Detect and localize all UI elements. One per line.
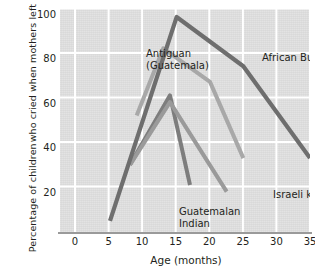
x-tick-label-10: 10 — [130, 236, 154, 247]
annotation-guatemalan-indian: Guatemalan Indian — [179, 206, 240, 230]
x-tick-label-30: 30 — [264, 236, 288, 247]
annotation-israeli-kibbutzim: Israeli kibbutzim — [273, 189, 310, 201]
x-tick-label-15: 15 — [164, 236, 188, 247]
y-tick-label-80: 80 — [30, 53, 56, 64]
x-tick-label-35: 35 — [298, 236, 315, 247]
annotation-guatemalan-line-1: Guatemalan — [179, 206, 240, 218]
annotation-guatemalan-line-2: Indian — [179, 218, 240, 230]
line-chart-figure: Percentage of children who cried when mo… — [0, 0, 315, 278]
annotation-antiguan-line-2: (Guatemala) — [146, 60, 209, 72]
x-tick-label-5: 5 — [97, 236, 121, 247]
y-tick-label-40: 40 — [30, 142, 56, 153]
x-tick-label-25: 25 — [231, 236, 255, 247]
annotation-african-bushman: African Bushman — [262, 52, 310, 64]
y-axis-title-line-2: who cried when mothers left — [27, 4, 39, 142]
y-tick-label-100: 100 — [30, 9, 56, 20]
annotation-antiguan-line-1: Antiguan — [146, 48, 209, 60]
y-tick-label-20: 20 — [30, 187, 56, 198]
plot-area: Antiguan (Guatemala) African Bushman Isr… — [60, 8, 310, 232]
annotation-antiguan: Antiguan (Guatemala) — [146, 48, 209, 72]
y-tick-label-60: 60 — [30, 98, 56, 109]
x-tick-label-0: 0 — [63, 236, 87, 247]
x-axis-line — [58, 232, 312, 234]
x-tick-label-20: 20 — [197, 236, 221, 247]
x-axis-title: Age (months) — [60, 254, 312, 266]
